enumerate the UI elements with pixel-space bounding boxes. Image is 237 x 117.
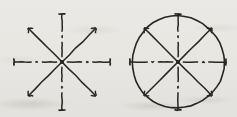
ray-lower-left-shaft (144, 62, 178, 96)
ray-right-segment (92, 62, 110, 63)
ray-down-segment (62, 86, 63, 89)
ray-group-ray-left (130, 58, 173, 65)
ray-group-ray-lower-left (144, 62, 178, 96)
ray-upper-right-shaft (178, 28, 212, 62)
ray-left-segment (151, 62, 154, 63)
ray-upper-left-barb-a (144, 28, 149, 29)
diagram-canvas (0, 0, 237, 117)
ray-group-ray-down (174, 67, 181, 110)
ray-down-end-tick (174, 110, 181, 111)
ray-upper-left-barb-b (28, 28, 29, 33)
ray-up-end-tick (174, 14, 181, 15)
ray-lower-right-shaft (62, 62, 96, 96)
ray-upper-right-barb-b (91, 28, 96, 29)
panel-right-star-in-circle (130, 14, 226, 111)
ray-group-ray-down (58, 67, 65, 111)
ray-upper-left-shaft (28, 28, 62, 62)
ray-lower-right-barb-b (211, 91, 212, 96)
ray-group-ray-up (58, 14, 65, 57)
ray-down-segment (62, 92, 63, 110)
ray-upper-right-shaft (62, 28, 96, 62)
ray-group-ray-left (14, 58, 57, 65)
ray-lower-left-barb-b (144, 96, 149, 97)
ray-lower-left-barb-b (28, 95, 33, 96)
panel-left-star (14, 14, 110, 111)
ray-up-segment (178, 35, 179, 38)
ray-lower-right-barb-b (95, 91, 96, 96)
ray-group-ray-lower-left (28, 62, 62, 96)
ray-group-ray-lower-right (62, 62, 96, 96)
panel-center-node (60, 60, 64, 64)
ray-left-segment (42, 62, 57, 63)
ray-up-segment (62, 14, 63, 32)
ray-group-ray-lower-right (178, 62, 212, 96)
ray-upper-left-shaft (144, 28, 178, 62)
ray-upper-right-barb-a (95, 28, 96, 33)
ray-group-ray-upper-right (178, 28, 212, 62)
ray-group-ray-upper-left (28, 28, 62, 62)
ray-group-ray-right (183, 58, 226, 65)
ray-lower-right-shaft (178, 62, 212, 96)
ray-up-segment (178, 14, 179, 32)
ray-group-ray-up (174, 14, 181, 57)
panel-center-node (176, 60, 180, 64)
ray-group-ray-right (67, 58, 111, 65)
ray-group-ray-upper-right (62, 28, 96, 62)
ray-group-ray-upper-left (144, 28, 178, 62)
ray-lower-left-shaft (28, 62, 62, 96)
ray-lower-right-barb-a (91, 95, 96, 96)
figure-sheet (0, 0, 237, 117)
